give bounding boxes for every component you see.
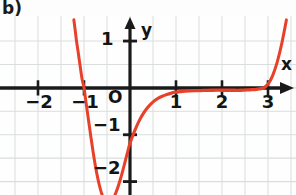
x-tick-label-neg2: −2 bbox=[25, 93, 53, 111]
origin-label: O bbox=[108, 89, 122, 106]
figure-container: b) −2−11231−1−2Oyx bbox=[0, 0, 296, 195]
x-tick-label-3: 3 bbox=[262, 93, 275, 111]
x-tick-label-2: 2 bbox=[216, 93, 229, 111]
y-tick-label-neg1: −1 bbox=[93, 116, 121, 134]
x-axis-label: x bbox=[281, 56, 292, 73]
x-tick-label-1: 1 bbox=[170, 93, 183, 111]
y-tick-label-1: 1 bbox=[101, 30, 114, 48]
y-axis-label: y bbox=[141, 22, 152, 39]
plot-area: −2−11231−1−2Oyx bbox=[0, 16, 296, 195]
x-tick-label-neg1: −1 bbox=[71, 93, 99, 111]
y-tick-label-neg2: −2 bbox=[93, 159, 121, 177]
